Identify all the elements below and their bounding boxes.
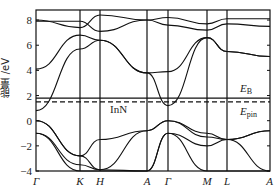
k-point-label: Γ xyxy=(164,175,172,187)
band-curves xyxy=(36,15,270,171)
y-tick-label: −4 xyxy=(20,165,32,177)
y-tick-label: 4 xyxy=(27,64,33,76)
y-tick-label: 0 xyxy=(27,115,33,127)
k-point-label: K xyxy=(75,175,84,187)
material-label: InN xyxy=(110,103,127,115)
y-axis-label: 能量 /eV xyxy=(0,58,14,98)
band-structure-chart: −4−202468 ΓKHAΓMLA EBEpinInN xyxy=(0,0,274,192)
annotations: EBEpinInN xyxy=(110,82,257,119)
x-axis-kpoint-labels: ΓKHAΓMLA xyxy=(32,175,273,187)
y-tick-label: 8 xyxy=(27,14,33,26)
k-point-label: A xyxy=(143,175,151,187)
band-curve xyxy=(36,121,270,156)
high-symmetry-lines xyxy=(80,10,227,171)
e-pin-label: Epin xyxy=(239,105,257,119)
k-point-label: M xyxy=(201,175,212,187)
e-b-label: EB xyxy=(239,82,252,96)
plot-frame xyxy=(36,10,270,171)
y-tick-label: 2 xyxy=(27,90,33,102)
k-point-label: L xyxy=(223,175,230,187)
band-curve xyxy=(36,38,270,111)
reference-lines xyxy=(36,98,270,102)
band-curve xyxy=(36,35,270,73)
k-point-label: Γ xyxy=(32,175,40,187)
k-point-label: A xyxy=(265,175,273,187)
y-tick-label: 6 xyxy=(27,39,33,51)
band-curve xyxy=(36,20,270,31)
k-point-label: H xyxy=(95,175,105,187)
y-tick-label: −2 xyxy=(20,140,32,152)
